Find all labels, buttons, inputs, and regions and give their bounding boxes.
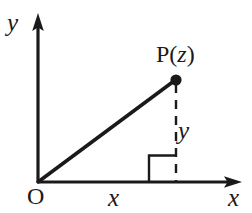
y-axis-label: y bbox=[7, 10, 18, 35]
origin-label: O bbox=[27, 184, 44, 208]
point-p-dot bbox=[170, 74, 181, 85]
argand-diagram-canvas bbox=[0, 0, 252, 213]
x-axis-label: x bbox=[228, 185, 239, 210]
imaginary-part-label: y bbox=[178, 118, 189, 143]
modulus-vector-line bbox=[38, 81, 174, 182]
right-angle-marker bbox=[149, 156, 176, 183]
argand-diagram: y x O x y P(z) bbox=[0, 0, 252, 213]
real-part-label: x bbox=[108, 185, 119, 210]
point-p-label-prefix: P( bbox=[156, 41, 177, 67]
point-p-label-suffix: ) bbox=[187, 41, 195, 67]
point-p-label: P(z) bbox=[156, 42, 195, 66]
point-p-label-variable: z bbox=[177, 41, 186, 67]
